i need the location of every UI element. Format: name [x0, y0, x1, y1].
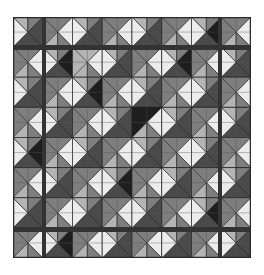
quilt-pattern: [13, 17, 251, 258]
sashing-band: [13, 227, 251, 232]
quilt-image: [13, 17, 251, 258]
sashing-band: [13, 45, 251, 50]
sashing-band: [218, 17, 222, 258]
sashing-band: [42, 17, 46, 258]
